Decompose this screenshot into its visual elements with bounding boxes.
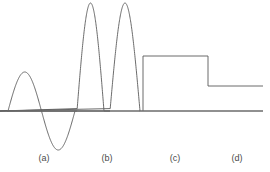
waveform-plot <box>0 0 270 172</box>
segment-label-d-text: (d) <box>232 153 243 163</box>
segment-label-a: (a) <box>24 153 64 163</box>
segment-label-b-text: (b) <box>102 153 113 163</box>
signal-traces <box>0 3 263 150</box>
segment-label-b: (b) <box>87 153 127 163</box>
segment-label-d: (d) <box>217 153 257 163</box>
trace-segment-c <box>143 56 208 111</box>
trace-segment-d <box>208 56 263 86</box>
segment-label-c-text: (c) <box>170 153 181 163</box>
segment-label-a-text: (a) <box>39 153 50 163</box>
waveform-figure: (a) (b) (c) (d) <box>0 0 270 172</box>
segment-label-c: (c) <box>155 153 195 163</box>
trace-segment-b <box>0 3 140 111</box>
